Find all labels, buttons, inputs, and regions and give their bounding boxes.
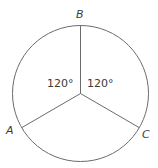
point-label-c: C bbox=[142, 128, 150, 141]
radius-a bbox=[22, 94, 81, 128]
point-label-b: B bbox=[76, 8, 84, 21]
radius-c bbox=[81, 94, 140, 128]
circle-diagram: B A C 120° 120° bbox=[0, 0, 158, 168]
angle-label-bc: 120° bbox=[87, 77, 114, 90]
point-label-a: A bbox=[5, 124, 14, 137]
angle-label-ab: 120° bbox=[47, 77, 74, 90]
